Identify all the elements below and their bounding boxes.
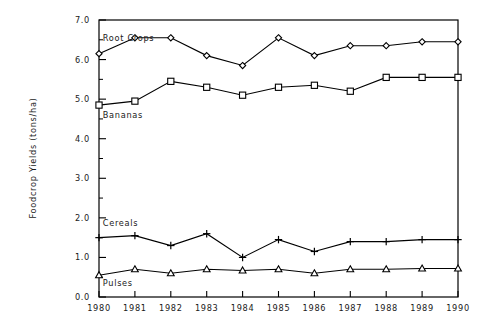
series-label-root-crops: Root Crops bbox=[103, 33, 155, 43]
series-cereals bbox=[95, 230, 461, 261]
datapoint-bananas-1981 bbox=[132, 98, 138, 104]
series-pulses bbox=[96, 265, 462, 278]
x-tick-label-1984: 1984 bbox=[231, 303, 255, 313]
x-tick-label-1989: 1989 bbox=[410, 303, 434, 313]
chart-canvas: 0.01.02.03.04.05.06.07.0 198019811982198… bbox=[0, 0, 494, 329]
datapoint-bananas-1984 bbox=[240, 92, 246, 98]
datapoint-root-crops-1983 bbox=[204, 53, 210, 59]
y-tick-label-0.0: 0.0 bbox=[75, 292, 90, 302]
datapoint-cereals-1988 bbox=[383, 238, 390, 245]
datapoint-cereals-1986 bbox=[311, 248, 318, 255]
datapoint-bananas-1986 bbox=[311, 82, 317, 88]
y-tick-label-1.0: 1.0 bbox=[75, 252, 90, 262]
foodcrop-yields-chart: 0.01.02.03.04.05.06.07.0 198019811982198… bbox=[0, 0, 494, 329]
datapoint-cereals-1989 bbox=[418, 236, 425, 243]
datapoint-cereals-1985 bbox=[275, 236, 282, 243]
datapoint-root-crops-1987 bbox=[347, 43, 353, 49]
datapoint-cereals-1987 bbox=[347, 238, 354, 245]
axes-frame bbox=[99, 20, 458, 297]
series-annotation-labels: Root CropsBananasCerealsPulses bbox=[103, 33, 155, 288]
x-tick-label-1981: 1981 bbox=[123, 303, 147, 313]
x-tick-label-1990: 1990 bbox=[446, 303, 470, 313]
series-label-pulses: Pulses bbox=[103, 278, 133, 288]
datapoint-root-crops-1989 bbox=[419, 39, 425, 45]
datapoint-bananas-1988 bbox=[383, 74, 389, 80]
datapoint-pulses-1983 bbox=[203, 266, 210, 272]
datapoint-bananas-1980 bbox=[96, 102, 102, 108]
y-tick-label-7.0: 7.0 bbox=[75, 15, 90, 25]
series-bananas bbox=[96, 74, 461, 108]
y-axis-title: Foodcrop Yields (tons/ha) bbox=[28, 97, 38, 218]
x-tick-label-1980: 1980 bbox=[87, 303, 111, 313]
datapoint-root-crops-1990 bbox=[455, 39, 461, 45]
series-label-cereals: Cereals bbox=[103, 218, 138, 228]
series-label-bananas: Bananas bbox=[103, 110, 143, 120]
datapoint-bananas-1989 bbox=[419, 74, 425, 80]
x-tick-label-1986: 1986 bbox=[303, 303, 327, 313]
datapoint-root-crops-1986 bbox=[311, 53, 317, 59]
datapoint-cereals-1983 bbox=[203, 230, 210, 237]
y-tick-label-5.0: 5.0 bbox=[75, 94, 90, 104]
datapoint-cereals-1982 bbox=[167, 242, 174, 249]
x-axis-tick-labels: 1980198119821983198419851986198719881989… bbox=[87, 303, 470, 313]
x-tick-label-1982: 1982 bbox=[159, 303, 183, 313]
datapoint-cereals-1990 bbox=[454, 236, 461, 243]
datapoint-bananas-1982 bbox=[168, 78, 174, 84]
x-axis-ticks bbox=[99, 291, 458, 297]
y-tick-label-4.0: 4.0 bbox=[75, 134, 90, 144]
datapoint-cereals-1981 bbox=[131, 232, 138, 239]
datapoint-bananas-1983 bbox=[204, 84, 210, 90]
datapoint-pulses-1985 bbox=[275, 266, 282, 272]
y-axis-tick-labels: 0.01.02.03.04.05.06.07.0 bbox=[75, 15, 90, 302]
datapoint-bananas-1985 bbox=[275, 84, 281, 90]
datapoint-cereals-1984 bbox=[239, 254, 246, 261]
datapoint-bananas-1990 bbox=[455, 74, 461, 80]
y-tick-label-2.0: 2.0 bbox=[75, 213, 90, 223]
data-series-layer bbox=[95, 35, 461, 278]
datapoint-root-crops-1988 bbox=[383, 43, 389, 49]
x-tick-label-1988: 1988 bbox=[374, 303, 398, 313]
x-tick-label-1985: 1985 bbox=[267, 303, 291, 313]
datapoint-cereals-1980 bbox=[95, 234, 102, 241]
datapoint-bananas-1987 bbox=[347, 88, 353, 94]
plot-frame bbox=[99, 20, 458, 297]
datapoint-root-crops-1980 bbox=[96, 51, 102, 57]
x-tick-label-1987: 1987 bbox=[338, 303, 362, 313]
x-tick-label-1983: 1983 bbox=[195, 303, 219, 313]
datapoint-pulses-1981 bbox=[132, 266, 139, 272]
series-line-bananas bbox=[99, 77, 458, 105]
datapoint-root-crops-1982 bbox=[168, 35, 174, 41]
y-tick-label-3.0: 3.0 bbox=[75, 173, 90, 183]
y-tick-label-6.0: 6.0 bbox=[75, 55, 90, 65]
y-axis-title-group: Foodcrop Yields (tons/ha) bbox=[28, 97, 38, 218]
